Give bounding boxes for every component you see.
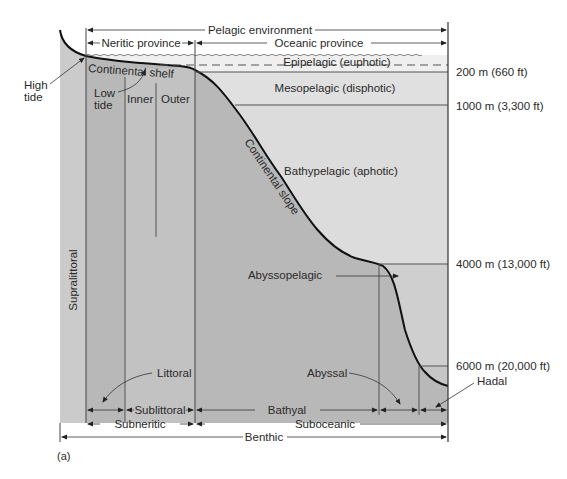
benthic-label: Benthic	[245, 431, 284, 443]
bathypelagic-label: Bathypelagic (aphotic)	[284, 165, 398, 177]
depth-label-1000m: 1000 m (3,300 ft)	[456, 100, 544, 112]
high-tide-label: High tide	[24, 79, 51, 103]
oceanic-province-label: Oceanic province	[275, 37, 364, 49]
hadal-label: Hadal	[477, 375, 507, 387]
supralittoral-zone	[60, 30, 86, 423]
supralittoral-label: Supralittoral	[67, 249, 79, 310]
panel-label: (a)	[57, 450, 70, 462]
bathyal-label: Bathyal	[268, 404, 306, 416]
littoral-label: Littoral	[157, 367, 192, 379]
mesopelagic-label: Mesopelagic (disphotic)	[275, 82, 396, 94]
suboceanic-label: Suboceanic	[295, 418, 355, 430]
outer-label: Outer	[161, 93, 190, 105]
depth-label-6000m: 6000 m (20,000 ft)	[456, 360, 550, 372]
sublittoral-label: Sublittoral	[134, 404, 185, 416]
pelagic-environment-label: Pelagic environment	[208, 24, 313, 36]
inner-label: Inner	[127, 93, 153, 105]
ocean-zones-diagram: Pelagic environment Neritic province Oce…	[0, 0, 567, 479]
abyssopelagic-label: Abyssopelagic	[248, 269, 322, 281]
neritic-province-label: Neritic province	[101, 37, 180, 49]
depth-label-200m: 200 m (660 ft)	[456, 66, 528, 78]
subneritic-label: Subneritic	[114, 418, 165, 430]
abyssal-label: Abyssal	[307, 367, 347, 379]
depth-label-4000m: 4000 m (13,000 ft)	[456, 258, 550, 270]
epipelagic-label: Epipelagic (euphotic)	[283, 56, 391, 68]
